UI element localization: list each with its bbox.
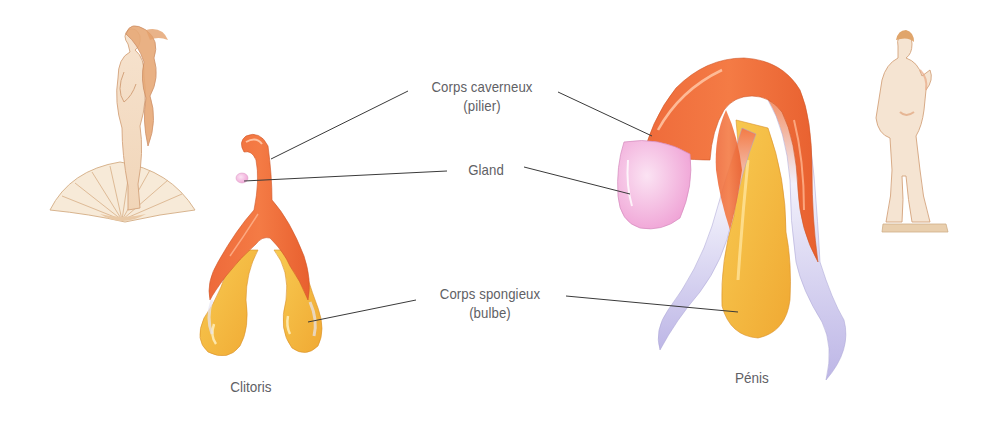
caption-penis: Pénis bbox=[735, 369, 769, 386]
label-corps-caverneux-line1: Corps caverneux bbox=[412, 77, 553, 96]
leader-line-corps-spongieux-right bbox=[566, 296, 738, 312]
diagram-stage: Corps caverneux (pilier) Gland Corps spo… bbox=[0, 0, 995, 423]
label-corps-spongieux: Corps spongieux (bulbe) bbox=[420, 284, 561, 322]
leader-line-gland-right bbox=[524, 167, 630, 194]
label-corps-caverneux: Corps caverneux (pilier) bbox=[412, 77, 553, 115]
label-corps-spongieux-line2: (bulbe) bbox=[420, 303, 561, 322]
leader-line-corps-caverneux-left bbox=[271, 91, 408, 159]
label-corps-caverneux-line2: (pilier) bbox=[412, 96, 553, 115]
label-gland-line1: Gland bbox=[451, 160, 521, 179]
penis-illustration bbox=[618, 58, 846, 380]
venus-figure-illustration bbox=[50, 26, 195, 222]
david-figure-illustration bbox=[876, 30, 948, 232]
leader-line-corps-caverneux-right bbox=[558, 92, 652, 136]
leader-line-gland-left bbox=[244, 171, 447, 181]
caption-clitoris: Clitoris bbox=[230, 378, 271, 395]
clitoris-illustration bbox=[200, 134, 322, 355]
label-corps-spongieux-line1: Corps spongieux bbox=[420, 284, 561, 303]
leader-line-corps-spongieux-left bbox=[308, 300, 416, 322]
label-gland: Gland bbox=[451, 160, 521, 179]
diagram-artwork bbox=[0, 0, 995, 423]
